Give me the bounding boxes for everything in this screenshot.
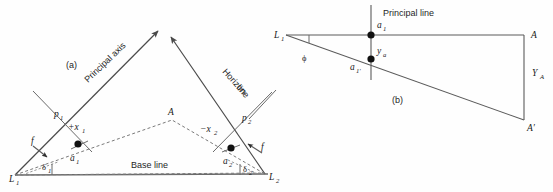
panel-a-tag: (a) xyxy=(66,60,77,70)
svg-text:L: L xyxy=(273,30,279,40)
svg-text:A: A xyxy=(539,73,545,80)
photo-coordinate-ya-label: y a xyxy=(376,46,387,58)
station-label-L1-panel-b: L 1 xyxy=(273,30,284,42)
principal-axis-label: Principal axis xyxy=(82,40,127,84)
elevation-YA-label: Y A xyxy=(532,68,545,80)
photo-coordinate-plus-x1: +x 1 xyxy=(68,122,85,134)
principal-point-p2-label: p 2 xyxy=(241,113,252,125)
svg-text:2: 2 xyxy=(249,169,253,176)
svg-text:2: 2 xyxy=(248,118,252,125)
ground-point-A-label: A xyxy=(167,107,174,117)
svg-text:1′: 1′ xyxy=(356,67,361,74)
ground-point-A-label-panel-b: A xyxy=(530,30,537,40)
svg-text:L: L xyxy=(268,172,274,182)
svg-text:Y: Y xyxy=(532,68,539,78)
image-point-a1-dot xyxy=(74,140,81,147)
photo-coordinate-minus-x2: −x 2 xyxy=(200,124,218,136)
angle-phi-label: ϕ xyxy=(302,53,307,63)
svg-text:p: p xyxy=(241,113,247,123)
svg-text:2: 2 xyxy=(214,129,218,136)
svg-text:δ: δ xyxy=(243,164,247,174)
svg-text:a: a xyxy=(223,156,228,166)
inclined-sight-line xyxy=(286,35,524,120)
principal-point-p1-label: p 1 xyxy=(53,109,63,121)
principal-axis-left xyxy=(15,31,158,175)
station-label-L1: L 1 xyxy=(8,174,19,186)
panel-a-group: (a) Principal axis Horizon line Base lin… xyxy=(8,31,280,186)
svg-text:+x: +x xyxy=(68,122,79,132)
image-point-a1b-dot xyxy=(367,31,374,38)
svg-text:a: a xyxy=(350,62,355,72)
base-line-label: Base line xyxy=(131,160,168,170)
svg-text:1: 1 xyxy=(281,35,284,42)
svg-text:a: a xyxy=(70,153,75,163)
principal-line-label: Principal line xyxy=(383,8,434,18)
image-point-a2-dot xyxy=(227,144,234,151)
image-point-a1prime-dot xyxy=(367,55,374,62)
svg-text:2: 2 xyxy=(276,177,280,184)
image-point-a1-label: a 1 xyxy=(70,153,79,165)
svg-text:1: 1 xyxy=(76,158,79,165)
svg-text:1: 1 xyxy=(383,25,386,32)
svg-text:1: 1 xyxy=(16,179,19,186)
horizon-line-segment xyxy=(249,90,276,119)
svg-text:−x: −x xyxy=(200,124,211,134)
svg-text:L: L xyxy=(8,174,14,184)
photogrammetry-figure: (a) Principal axis Horizon line Base lin… xyxy=(0,0,553,192)
svg-text:p: p xyxy=(53,109,59,119)
svg-text:1: 1 xyxy=(60,114,63,121)
figure-canvas: (a) Principal axis Horizon line Base lin… xyxy=(0,0,553,192)
svg-text:1: 1 xyxy=(82,127,85,134)
focal-length-label-right: f xyxy=(261,142,265,152)
svg-text:1: 1 xyxy=(48,167,51,174)
svg-text:a: a xyxy=(377,20,382,30)
svg-text:a: a xyxy=(383,51,387,58)
focal-length-label-left: f xyxy=(31,136,35,146)
datum-point-A-prime-label: A′ xyxy=(526,123,536,133)
delta1-angle-ray xyxy=(22,162,58,175)
station-label-L2: L 2 xyxy=(268,172,280,184)
image-point-a1prime-label: a 1′ xyxy=(350,62,361,74)
panel-b-group: Principal line (b) L 1 a 1 a 1′ y a xyxy=(273,5,545,133)
panel-b-tag: (b) xyxy=(392,95,403,105)
svg-text:δ: δ xyxy=(42,162,46,172)
image-point-a2-label: a 2 xyxy=(223,156,233,168)
principal-axis-right xyxy=(171,37,265,174)
image-point-a1-label-panel-b: a 1 xyxy=(377,20,386,32)
svg-text:y: y xyxy=(376,46,382,56)
